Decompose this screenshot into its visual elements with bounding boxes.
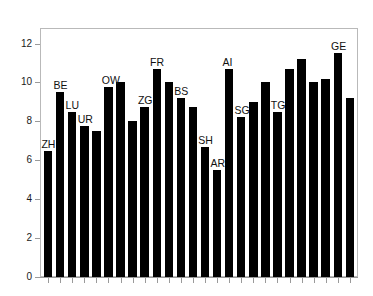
bar — [165, 82, 173, 277]
x-axis-tick-mark — [205, 278, 206, 283]
x-axis-tick-mark — [290, 278, 291, 283]
x-axis-tick-mark — [145, 278, 146, 283]
bar-value-label: ZG — [138, 94, 153, 106]
bar — [237, 117, 245, 277]
bar-value-label: TG — [271, 99, 286, 111]
bar — [104, 87, 112, 277]
bar — [189, 107, 197, 277]
x-axis-tick-mark — [133, 278, 134, 283]
y-axis-tick: 4 — [0, 199, 40, 200]
y-axis-tick: 12 — [0, 44, 40, 45]
x-axis-tick-mark — [108, 278, 109, 283]
x-axis-tick-mark — [60, 278, 61, 283]
bars-container — [40, 28, 358, 277]
y-axis-tick-label: 12 — [21, 37, 32, 50]
y-axis-tick-label: 6 — [26, 153, 32, 166]
x-axis-tick-mark — [277, 278, 278, 283]
bar-value-label: SH — [198, 134, 213, 146]
bar — [80, 126, 88, 277]
x-axis-tick-mark — [169, 278, 170, 283]
x-axis-tick-mark — [193, 278, 194, 283]
bar — [249, 102, 257, 277]
bar — [334, 53, 342, 277]
bar-value-label: BE — [53, 79, 67, 91]
bar — [285, 69, 293, 277]
y-axis-tick: 0 — [0, 277, 40, 278]
x-axis-tick-mark — [96, 278, 97, 283]
bar — [225, 69, 233, 277]
bar — [140, 107, 148, 277]
bar — [92, 131, 100, 277]
x-axis-tick-mark — [84, 278, 85, 283]
bar-value-label: FR — [150, 56, 164, 68]
bar-value-label: ZH — [41, 138, 55, 150]
x-axis-tick-mark — [265, 278, 266, 283]
x-axis-tick-mark — [302, 278, 303, 283]
bar-value-label: SG — [235, 104, 250, 116]
bar — [309, 82, 317, 277]
y-axis-tick: 2 — [0, 238, 40, 239]
y-axis-tick-label: 10 — [21, 75, 32, 88]
y-axis-tick: 10 — [0, 82, 40, 83]
bar-value-label: UR — [78, 113, 93, 125]
bar — [128, 121, 136, 277]
x-axis-tick-mark — [241, 278, 242, 283]
y-axis-tick: 8 — [0, 121, 40, 122]
x-axis-tick-mark — [48, 278, 49, 283]
x-axis-tick-mark — [350, 278, 351, 283]
bar-value-label: AR — [210, 157, 225, 169]
bar-chart-figure: 024681012 ZHBELUUROWZGFRBSSHARAISGTGGE — [0, 0, 373, 296]
x-axis-tick-mark — [253, 278, 254, 283]
bar-value-label: GE — [331, 40, 346, 52]
bar — [153, 69, 161, 277]
bar — [116, 82, 124, 277]
bar-value-label: LU — [66, 99, 79, 111]
bar — [273, 112, 281, 277]
x-axis-tick-mark — [326, 278, 327, 283]
bar — [201, 147, 209, 277]
x-axis-tick-mark — [217, 278, 218, 283]
bar-value-label: BS — [174, 85, 188, 97]
bar-value-label: AI — [222, 56, 232, 68]
y-axis-tick-label: 0 — [26, 270, 32, 283]
y-axis-tick: 6 — [0, 160, 40, 161]
bar — [297, 59, 305, 277]
x-axis — [40, 277, 358, 296]
bar — [56, 92, 64, 277]
bar — [321, 79, 329, 277]
y-axis-tick-label: 2 — [26, 231, 32, 244]
x-axis-line — [40, 277, 358, 278]
bar — [261, 82, 269, 277]
y-axis-tick-label: 4 — [26, 192, 32, 205]
y-axis-tick-label: 8 — [26, 114, 32, 127]
x-axis-tick-mark — [314, 278, 315, 283]
x-axis-tick-mark — [157, 278, 158, 283]
x-axis-tick-mark — [72, 278, 73, 283]
x-axis-tick-mark — [121, 278, 122, 283]
x-axis-tick-mark — [229, 278, 230, 283]
bar — [68, 112, 76, 277]
bar — [346, 98, 354, 277]
bar — [213, 170, 221, 277]
bar — [44, 151, 52, 277]
bar — [177, 98, 185, 277]
x-axis-tick-mark — [338, 278, 339, 283]
bar-value-label: OW — [102, 74, 120, 86]
x-axis-tick-mark — [181, 278, 182, 283]
y-axis: 024681012 — [0, 0, 40, 296]
